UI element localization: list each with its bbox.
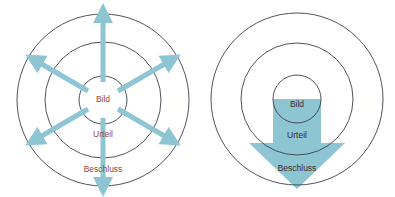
right-label-inner: Bild <box>290 99 304 109</box>
left-label-inner: Bild <box>96 94 110 104</box>
arrow-lower-left-icon <box>33 109 88 141</box>
arrow-upper-left-icon <box>33 59 88 91</box>
left-label-outer: Beschluss <box>84 164 123 174</box>
diagram-canvas: Bild Urteil Beschluss Bild Urteil Beschl… <box>0 0 395 197</box>
right-diagram: Bild Urteil Beschluss <box>211 13 383 189</box>
left-label-middle: Urteil <box>93 129 113 139</box>
right-label-outer: Beschluss <box>278 163 317 173</box>
right-label-middle: Urteil <box>287 130 307 140</box>
arrow-upper-right-icon <box>118 59 173 91</box>
left-diagram: Bild Urteil Beschluss <box>17 12 189 188</box>
arrow-lower-right-icon <box>118 109 173 141</box>
